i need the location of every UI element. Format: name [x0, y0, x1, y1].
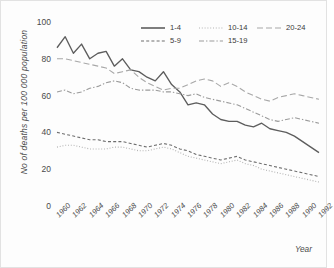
- legend-label-20-24: 20-24: [286, 23, 305, 32]
- legend-label-5-9: 5-9: [170, 36, 181, 45]
- legend-key-20-24: [257, 24, 281, 32]
- legend-item-10-14[interactable]: 10-14: [199, 23, 257, 32]
- legend-item-1-4[interactable]: 1-4: [141, 23, 199, 32]
- legend-label-10-14: 10-14: [228, 23, 247, 32]
- legend-item-15-19[interactable]: 15-19: [199, 36, 257, 45]
- legend: 1-410-1420-245-915-19: [141, 23, 317, 49]
- legend-key-15-19: [199, 37, 223, 45]
- legend-key-5-9: [141, 37, 165, 45]
- legend-item-20-24[interactable]: 20-24: [257, 23, 315, 32]
- series-line-5-9: [57, 132, 319, 176]
- series-line-20-24: [57, 59, 319, 101]
- legend-row: 1-410-1420-24: [141, 23, 317, 32]
- legend-label-1-4: 1-4: [170, 23, 181, 32]
- legend-key-1-4: [141, 24, 165, 32]
- legend-item-5-9[interactable]: 5-9: [141, 36, 199, 45]
- series-line-1-4: [57, 37, 319, 153]
- legend-key-10-14: [199, 24, 223, 32]
- x-axis-title: Year: [295, 244, 312, 254]
- legend-label-15-19: 15-19: [228, 36, 247, 45]
- series-line-15-19: [57, 81, 319, 123]
- series-line-10-14: [57, 145, 319, 182]
- legend-row: 5-915-19: [141, 36, 317, 45]
